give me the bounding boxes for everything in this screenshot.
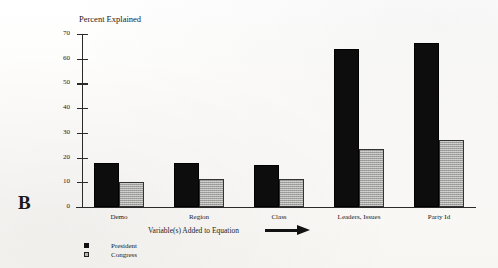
bar-congress bbox=[119, 182, 144, 207]
bar-group bbox=[414, 34, 464, 207]
bar-congress bbox=[279, 179, 304, 207]
bar-group bbox=[334, 34, 384, 207]
y-tick-label: 70 bbox=[63, 29, 70, 37]
bar-president bbox=[94, 163, 119, 207]
bar-chart-plot-area: 010203040506070 DemoRegionClassLeaders, … bbox=[82, 34, 482, 207]
y-tick-label: 20 bbox=[63, 153, 70, 161]
x-category-label: Party Id bbox=[396, 213, 482, 221]
black-square-icon bbox=[84, 243, 89, 248]
panel-label: B bbox=[18, 192, 31, 214]
x-category-label: Class bbox=[236, 213, 322, 221]
x-category-label: Leaders, Issues bbox=[316, 213, 402, 221]
bar-president bbox=[334, 49, 359, 207]
bar-president bbox=[254, 165, 279, 207]
bar-president bbox=[174, 163, 199, 207]
legend-item-label: President bbox=[111, 242, 137, 250]
legend-item-label: Congress bbox=[111, 251, 137, 259]
gray-square-icon bbox=[84, 252, 89, 257]
x-category-label: Demo bbox=[76, 213, 162, 221]
legend-item: President bbox=[84, 241, 137, 250]
y-tick-label: 50 bbox=[63, 78, 70, 86]
right-arrow-icon bbox=[265, 226, 311, 235]
bar-group bbox=[254, 34, 304, 207]
bar-president bbox=[414, 43, 439, 207]
y-axis-title: Percent Explained bbox=[79, 14, 141, 24]
bar-group bbox=[174, 34, 224, 207]
y-tick-label: 30 bbox=[63, 128, 70, 136]
chart-legend: PresidentCongress bbox=[84, 241, 137, 259]
y-tick-label: 40 bbox=[63, 103, 70, 111]
bar-congress bbox=[439, 140, 464, 207]
legend-item: Congress bbox=[84, 250, 137, 259]
y-tick: 0 bbox=[77, 207, 88, 208]
bar-congress bbox=[359, 149, 384, 207]
x-axis-line bbox=[76, 207, 476, 208]
x-category-label: Region bbox=[156, 213, 242, 221]
bar-congress bbox=[199, 179, 224, 207]
y-tick-label: 10 bbox=[63, 177, 70, 185]
bar-group bbox=[94, 34, 144, 207]
y-tick-label: 0 bbox=[67, 202, 71, 210]
x-axis-title: Variable(s) Added to Equation bbox=[148, 226, 239, 235]
x-axis-title-row: Variable(s) Added to Equation bbox=[148, 226, 311, 235]
bar-series-container bbox=[82, 34, 482, 207]
y-tick-label: 60 bbox=[63, 54, 70, 62]
